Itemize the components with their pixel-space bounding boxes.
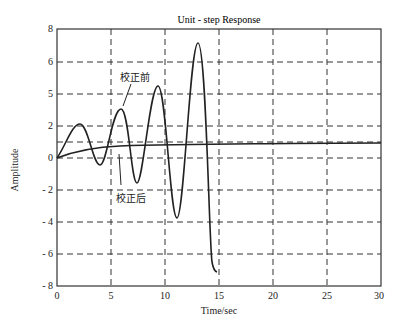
y-tick: - 6: [42, 248, 53, 259]
anno-before-pointer: [123, 84, 131, 106]
y-tick: - 2: [42, 184, 53, 195]
y-axis-label: Amplitude: [9, 148, 20, 191]
y-ticks: 8 6 5 2 0 - 2 - 4 - 6 - 8: [42, 23, 53, 291]
y-tick: 2: [48, 120, 53, 131]
y-tick: 0: [48, 152, 53, 163]
x-tick: 5: [109, 290, 114, 301]
x-tick: 10: [160, 290, 170, 301]
x-axis-label: Time/sec: [201, 305, 238, 316]
y-tick: - 8: [42, 280, 53, 291]
annotation-before: 校正前: [120, 71, 150, 83]
annotation-after: 校正后: [116, 192, 146, 204]
y-tick: 6: [48, 56, 53, 67]
grid: [57, 29, 381, 286]
anno-after-pointer: [119, 154, 121, 185]
x-tick: 20: [268, 290, 278, 301]
x-ticks: 0 5 10 15 20 25 30: [55, 290, 385, 301]
x-tick: 25: [322, 290, 332, 301]
y-tick: - 4: [42, 216, 53, 227]
x-tick: 30: [374, 290, 384, 301]
y-tick: 5: [48, 88, 53, 99]
x-tick: 0: [55, 290, 60, 301]
x-tick: 15: [214, 290, 224, 301]
chart-title: Unit - step Response: [177, 14, 261, 25]
y-tick: 8: [48, 23, 53, 34]
step-response-chart: Unit - step Response 8 6 5 2 0 - 2 - 4 -…: [0, 0, 401, 330]
